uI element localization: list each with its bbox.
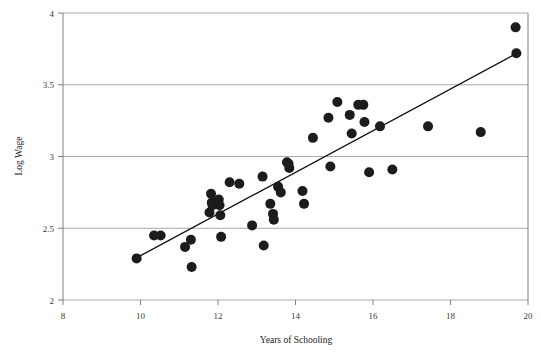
data-point — [359, 117, 369, 127]
tick-marks-group — [58, 13, 528, 305]
data-point — [364, 167, 374, 177]
data-point — [323, 113, 333, 123]
data-point — [216, 232, 226, 242]
data-point — [269, 215, 279, 225]
x-tick-label-8: 8 — [61, 311, 66, 321]
x-tick-label-10: 10 — [136, 311, 146, 321]
data-point — [347, 129, 357, 139]
y-axis-title: Log Wage — [14, 137, 24, 176]
data-point — [234, 179, 244, 189]
data-point — [325, 162, 335, 172]
data-point — [511, 48, 521, 58]
y-tick-labels-group: 22.533.54 — [43, 9, 55, 306]
y-tick-label-2: 2 — [50, 296, 55, 306]
data-points-group — [132, 22, 522, 272]
data-point — [308, 133, 318, 143]
x-tick-label-18: 18 — [446, 311, 456, 321]
scatter-plot-canvas: 8101214161820 22.533.54 Years of Schooli… — [0, 0, 541, 361]
data-point — [247, 220, 257, 230]
x-axis-title: Years of Schooling — [260, 335, 333, 345]
x-tick-label-20: 20 — [524, 311, 534, 321]
y-tick-label-3: 3 — [50, 152, 55, 162]
y-tick-label-4: 4 — [50, 9, 55, 19]
x-tick-label-12: 12 — [214, 311, 223, 321]
data-point — [297, 186, 307, 196]
data-point — [332, 97, 342, 107]
y-tick-label-3.5: 3.5 — [43, 80, 55, 90]
data-point — [387, 164, 397, 174]
data-point — [375, 121, 385, 131]
regression-line-group — [135, 53, 517, 258]
data-point — [186, 235, 196, 245]
data-point — [187, 262, 197, 272]
data-point — [358, 100, 368, 110]
data-point — [299, 199, 309, 209]
regression-line — [135, 53, 517, 258]
data-point — [258, 172, 268, 182]
data-point — [132, 253, 142, 263]
y-tick-label-2.5: 2.5 — [43, 224, 55, 234]
data-point — [265, 199, 275, 209]
chart-figure: 8101214161820 22.533.54 Years of Schooli… — [0, 0, 541, 361]
data-point — [476, 127, 486, 137]
x-tick-label-14: 14 — [291, 311, 301, 321]
data-point — [215, 210, 225, 220]
cropped-header-text — [0, 0, 541, 9]
data-point — [345, 110, 355, 120]
data-point — [225, 177, 235, 187]
data-point — [276, 187, 286, 197]
x-tick-label-16: 16 — [369, 311, 379, 321]
data-point — [259, 240, 269, 250]
data-point — [284, 163, 294, 173]
x-tick-labels-group: 8101214161820 — [61, 311, 533, 321]
data-point — [511, 22, 521, 32]
data-point — [423, 121, 433, 131]
data-point — [215, 200, 225, 210]
data-point — [156, 230, 166, 240]
